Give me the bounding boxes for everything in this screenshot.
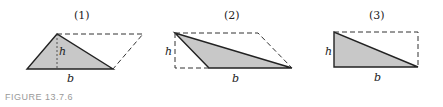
triangle-3 <box>334 32 418 67</box>
panel-1: (1) h b <box>27 9 143 85</box>
figure-diagram: (1) h b (2) h b (3) h b <box>0 0 443 107</box>
panel-label-3: (3) <box>369 9 385 22</box>
triangle-1 <box>27 34 113 69</box>
base-label-1: b <box>67 72 74 85</box>
base-label-3: b <box>374 71 381 84</box>
panel-2: (2) h b <box>165 9 292 85</box>
figure-caption: FIGURE 13.7.6 <box>5 92 73 102</box>
height-label-2: h <box>165 45 172 58</box>
panel-3: (3) h b <box>325 9 418 84</box>
height-label-1: h <box>59 45 66 58</box>
base-label-2: b <box>232 72 239 85</box>
panel-label-1: (1) <box>74 9 90 22</box>
height-label-3: h <box>325 45 332 58</box>
panel-label-2: (2) <box>224 9 240 22</box>
